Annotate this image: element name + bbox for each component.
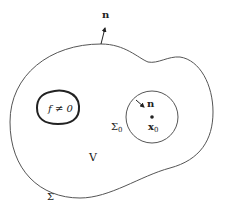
inner-surface-label-subscript: 0 <box>118 126 122 134</box>
volume-label: V <box>88 151 98 164</box>
outer-normal-arrow <box>101 28 105 44</box>
outer-surface-label: Σ <box>47 191 54 202</box>
inner-surface-label: Σ0 <box>111 121 123 134</box>
inner-normal-label: n <box>147 98 155 109</box>
point-x0-label: x0 <box>148 121 158 134</box>
point-x0-dot <box>150 115 154 119</box>
outer-normal-label: n <box>102 9 110 20</box>
source-region-label: f ≠ 0 <box>47 103 73 114</box>
point-x0-label-subscript: 0 <box>154 126 158 134</box>
inner-surface-label-main: Σ <box>111 121 118 132</box>
volume-diagram: n f ≠ 0 n x0 Σ0 V Σ <box>0 0 225 211</box>
inner-normal-arrow <box>136 100 144 107</box>
